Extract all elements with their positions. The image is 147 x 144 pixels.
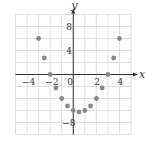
data-point xyxy=(59,96,64,101)
x-tick-label: 4 xyxy=(117,77,123,87)
data-point xyxy=(36,36,41,41)
data-point xyxy=(54,86,59,91)
y-tick-label: −8 xyxy=(62,118,76,128)
x-axis-label: x xyxy=(139,68,146,81)
data-point xyxy=(111,56,116,61)
data-point xyxy=(77,110,82,115)
x-axis-arrow-icon xyxy=(133,73,138,77)
data-point xyxy=(88,104,93,109)
data-point xyxy=(106,72,111,77)
scatter-plot: x y −4−202484−8 xyxy=(0,0,147,144)
axes: x y xyxy=(16,0,147,135)
data-point xyxy=(48,72,53,77)
data-point xyxy=(82,108,87,113)
x-tick-label: 2 xyxy=(94,77,100,87)
data-point xyxy=(65,104,70,109)
x-tick-label: −2 xyxy=(45,77,58,87)
data-point xyxy=(100,86,105,91)
data-points xyxy=(36,36,122,114)
x-tick-label: −4 xyxy=(22,77,36,87)
y-tick-label: 8 xyxy=(66,22,72,32)
data-point xyxy=(71,108,76,113)
y-axis-label: y xyxy=(70,0,78,12)
data-point xyxy=(42,56,47,61)
data-point xyxy=(117,36,122,41)
x-tick-label: 0 xyxy=(67,77,73,87)
y-tick-label: 4 xyxy=(66,46,72,56)
data-point xyxy=(94,96,99,101)
